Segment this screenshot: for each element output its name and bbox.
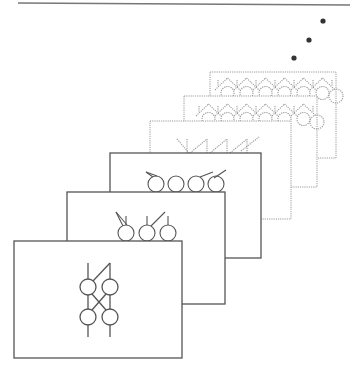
figure-canvas xyxy=(0,0,350,372)
ellipsis-dot-icon xyxy=(291,55,296,60)
frame-1 xyxy=(14,241,182,358)
ellipsis-dot-icon xyxy=(306,37,311,42)
ellipsis-dots xyxy=(291,18,325,60)
top-rule-line xyxy=(18,3,350,5)
frame-box xyxy=(14,241,182,358)
figure-caption xyxy=(14,362,184,372)
top-rule xyxy=(18,3,350,5)
stacked-frames xyxy=(14,72,343,358)
ellipsis-dot-icon xyxy=(320,18,325,23)
